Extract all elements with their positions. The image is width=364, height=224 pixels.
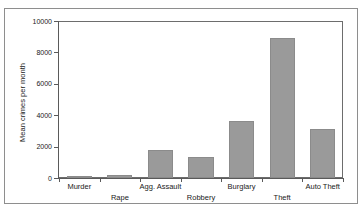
x-label-auto-theft: Auto Theft [292,182,354,191]
y-axis-title: Mean crimes per month [18,43,27,163]
y-tick-mark [54,84,58,85]
x-label-rape: Rape [89,193,151,202]
bar-burglary [229,121,254,178]
y-tick-mark [54,178,58,179]
bar-robbery [188,157,213,178]
bar-agg-assault [148,150,173,178]
y-tick-label: 10000 [18,18,52,25]
bar-rape [107,175,132,178]
bar-theft [270,38,295,178]
x-label-robbery: Robbery [170,193,232,202]
x-label-burglary: Burglary [211,182,273,191]
bar-auto-theft [310,129,335,178]
bar-chart-figure: 0200040006000800010000 Mean crimes per m… [0,0,364,224]
x-label-murder: Murder [48,182,110,191]
y-tick-mark [54,52,58,53]
y-tick-mark [54,115,58,116]
y-tick-mark [54,21,58,22]
bars-container [59,21,343,178]
y-tick-mark [54,147,58,148]
x-label-theft: Theft [251,193,313,202]
x-label-agg-assault: Agg. Assault [129,182,191,191]
x-axis-line [58,178,344,179]
bar-murder [67,176,92,178]
y-tick-label: 0 [18,175,52,182]
